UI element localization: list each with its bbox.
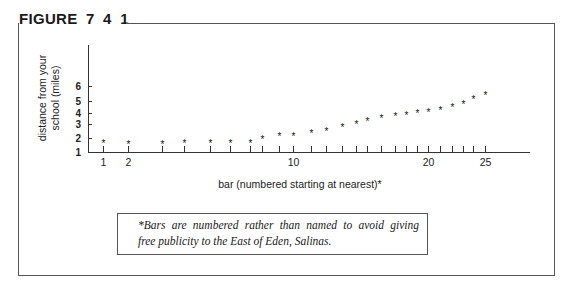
y-tick-label: 3	[75, 119, 81, 130]
data-point-star-icon: *	[249, 138, 253, 149]
data-point-star-icon: *	[127, 139, 131, 150]
footnote-line-2: free publicity to the East of Eden, Sali…	[138, 234, 419, 250]
data-point-star-icon: *	[439, 105, 443, 116]
y-tick-label: 2	[75, 133, 81, 144]
data-point-star-icon: *	[355, 119, 359, 130]
data-point-star-icon: *	[394, 111, 398, 122]
y-tick-label: 5	[75, 96, 81, 107]
y-axis-label-line: distance from your	[36, 54, 48, 141]
x-tick-label: 25	[480, 156, 492, 168]
data-point-star-icon: *	[405, 110, 409, 121]
data-point-star-icon: *	[427, 107, 431, 118]
data-points: *************************	[102, 90, 488, 150]
footnote-box: *Bars are numbered rather than named to …	[117, 213, 428, 255]
data-point-star-icon: *	[325, 126, 329, 137]
y-tick-label: 4	[75, 108, 81, 119]
x-tick-label: 2	[126, 156, 132, 168]
data-point-star-icon: *	[366, 116, 370, 127]
data-point-star-icon: *	[102, 138, 106, 149]
data-point-star-icon: *	[462, 99, 466, 110]
x-axis-label: bar (numbered starting at nearest)*	[218, 178, 381, 190]
data-point-star-icon: *	[229, 138, 233, 149]
data-point-star-icon: *	[278, 131, 282, 142]
data-point-star-icon: *	[472, 94, 476, 105]
x-tick-label: 1	[101, 156, 107, 168]
data-point-star-icon: *	[416, 108, 420, 119]
data-point-star-icon: *	[380, 113, 384, 124]
data-point-star-icon: *	[310, 128, 314, 139]
data-point-star-icon: *	[341, 122, 345, 133]
data-point-star-icon: *	[261, 134, 265, 145]
data-point-star-icon: *	[451, 102, 455, 113]
footnote-line-1: *Bars are numbered rather than named to …	[138, 218, 419, 234]
data-point-star-icon: *	[161, 139, 165, 150]
x-tick-label: 20	[423, 156, 435, 168]
data-point-star-icon: *	[292, 131, 296, 142]
y-tick-label: 1	[75, 147, 81, 158]
y-axis-label-line: school (miles)	[49, 66, 61, 131]
data-point-star-icon: *	[183, 138, 187, 149]
y-ticks: 123456	[75, 81, 92, 158]
data-point-star-icon: *	[484, 90, 488, 101]
x-ticks: 12102025	[101, 146, 492, 168]
y-tick-label: 6	[75, 81, 81, 92]
data-point-star-icon: *	[209, 138, 213, 149]
y-axis-label: distance from yourschool (miles)	[36, 54, 61, 141]
x-tick-label: 10	[288, 156, 300, 168]
